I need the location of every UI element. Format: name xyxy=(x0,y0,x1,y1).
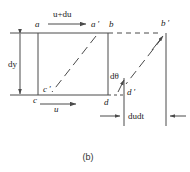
label-velocity-top: u+du xyxy=(53,9,72,19)
arrow-to-bprime xyxy=(152,36,163,50)
label-corner-c: c xyxy=(33,95,37,105)
diagram-labels: u+du a a ′ b b ′ dy c ′ c u d dθ d ′ dud… xyxy=(8,9,170,162)
figure-panel-b: u+du a a ′ b b ′ dy c ′ c u d dθ d ′ dud… xyxy=(0,0,190,172)
label-angle-dtheta: dθ xyxy=(110,71,119,81)
label-corner-d-prime: d ′ xyxy=(127,87,136,97)
angle-arrow-dtheta xyxy=(118,80,124,92)
label-displacement-dudt: dudt xyxy=(128,111,145,121)
label-velocity-bottom: u xyxy=(54,104,59,114)
label-corner-a-prime: a ′ xyxy=(91,19,100,29)
label-corner-d: d xyxy=(104,97,109,107)
label-corner-b: b xyxy=(109,19,114,29)
deformation-diagram: u+du a a ′ b b ′ dy c ′ c u d dθ d ′ dud… xyxy=(0,0,190,172)
diagonal-aprime-cprime xyxy=(52,36,96,92)
figure-caption: (b) xyxy=(83,152,94,162)
label-corner-b-prime: b ′ xyxy=(161,18,170,28)
label-corner-c-prime: c ′ xyxy=(43,84,52,94)
diagram-lines xyxy=(10,24,186,126)
label-corner-a: a xyxy=(35,19,40,29)
label-height-dy: dy xyxy=(8,59,18,69)
